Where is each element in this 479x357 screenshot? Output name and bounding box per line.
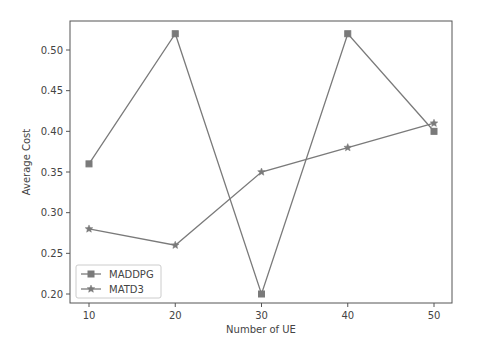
x-tick-label: 40: [341, 310, 354, 321]
series-line: [89, 123, 434, 245]
x-tick-label: 30: [255, 310, 268, 321]
series-line: [89, 34, 434, 294]
y-tick-label: 0.40: [41, 126, 63, 137]
line-chart: 10203040500.200.250.300.350.400.450.50 N…: [0, 0, 479, 357]
y-tick-label: 0.35: [41, 167, 63, 178]
square-marker: [345, 31, 351, 37]
star-marker: [430, 119, 438, 126]
star-marker: [344, 144, 352, 151]
x-tick-label: 10: [83, 310, 96, 321]
star-marker: [85, 225, 93, 232]
legend: MADDPGMATD3: [76, 265, 161, 298]
y-tick-label: 0.25: [41, 248, 63, 259]
series-matd3: [85, 119, 438, 248]
square-marker: [259, 291, 265, 297]
y-tick-label: 0.30: [41, 207, 63, 218]
square-marker: [86, 161, 92, 167]
square-marker: [172, 31, 178, 37]
legend-square-icon: [88, 271, 94, 277]
y-tick-label: 0.50: [41, 45, 63, 56]
series-maddpg: [86, 31, 437, 297]
y-tick-label: 0.20: [41, 289, 63, 300]
y-axis-label: Average Cost: [21, 129, 32, 196]
legend-label: MATD3: [109, 284, 144, 295]
x-tick-label: 20: [169, 310, 182, 321]
x-tick-label: 50: [428, 310, 441, 321]
square-marker: [431, 128, 437, 134]
x-axis-label: Number of UE: [226, 324, 296, 335]
plot-frame: [70, 21, 452, 303]
y-tick-label: 0.45: [41, 85, 63, 96]
legend-label: MADDPG: [109, 269, 154, 280]
series-layer: [85, 31, 438, 297]
